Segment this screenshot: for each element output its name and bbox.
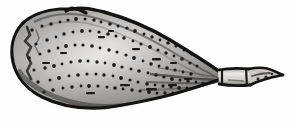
tip-speckle-3 — [271, 73, 274, 76]
neck-bottom-outline — [219, 84, 251, 86]
tip-speckle-2 — [257, 78, 260, 81]
figure-container: Grayscale illustration of a rounded bulb… — [0, 0, 294, 127]
specimen-illustration — [0, 0, 294, 127]
tip-speckle-1 — [264, 75, 267, 78]
neck-longitudinal-line — [228, 80, 244, 81]
specimen-neck — [218, 68, 251, 87]
